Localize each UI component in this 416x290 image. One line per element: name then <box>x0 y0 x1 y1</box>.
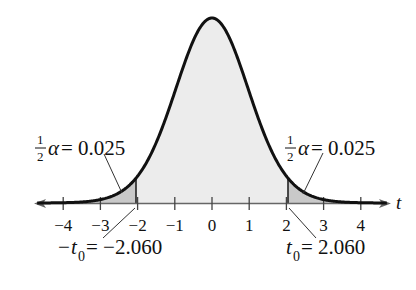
svg-text:2: 2 <box>37 149 44 164</box>
center-region-fill <box>37 18 387 203</box>
svg-text:−: − <box>58 235 70 259</box>
svg-text:2: 2 <box>287 149 294 164</box>
tick-label: −1 <box>166 216 184 235</box>
svg-text:= 0.025: = 0.025 <box>311 136 375 160</box>
right-critical-annotation: t 0 = 2.060 <box>286 235 365 264</box>
tick-label: 4 <box>357 216 366 235</box>
svg-text:α: α <box>48 136 60 160</box>
svg-text:= 2.060: = 2.060 <box>301 235 365 259</box>
t-distribution-chart: −4−3−2−101234 t 1 2 α = 0.025 1 2 α = 0.… <box>0 0 416 290</box>
tick-label: 3 <box>319 216 328 235</box>
svg-text:t: t <box>71 235 78 259</box>
svg-text:0: 0 <box>78 249 85 264</box>
svg-text:1: 1 <box>37 132 44 147</box>
x-axis-label: t <box>396 192 402 213</box>
right-crit-leader <box>289 208 316 238</box>
left-alpha-annotation: 1 2 α = 0.025 <box>35 132 125 164</box>
tick-label: −3 <box>91 216 109 235</box>
right-alpha-annotation: 1 2 α = 0.025 <box>285 132 375 164</box>
tick-label: 0 <box>208 216 217 235</box>
svg-text:t: t <box>286 235 293 259</box>
tick-label: −2 <box>129 216 147 235</box>
tick-label: 2 <box>282 216 291 235</box>
tick-label: 1 <box>245 216 254 235</box>
svg-text:1: 1 <box>287 132 294 147</box>
svg-text:α: α <box>298 136 310 160</box>
svg-text:= 0.025: = 0.025 <box>61 136 125 160</box>
svg-text:0: 0 <box>293 249 300 264</box>
tick-label: −4 <box>54 216 73 235</box>
left-critical-annotation: − t 0 = −2.060 <box>58 235 162 264</box>
svg-text:= −2.060: = −2.060 <box>86 235 162 259</box>
